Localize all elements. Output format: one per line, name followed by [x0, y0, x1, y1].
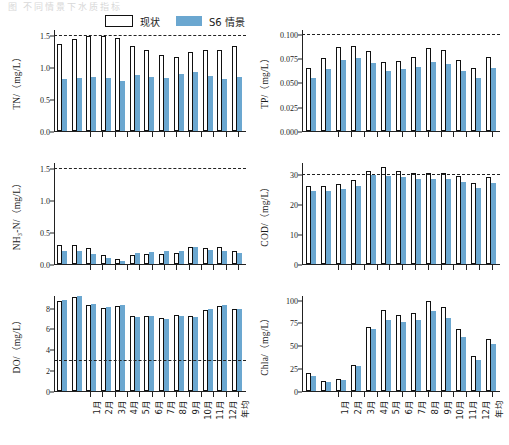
- bar-scenario-s6: [237, 253, 242, 264]
- bar-scenario-s6: [91, 254, 96, 264]
- bar-group: [229, 30, 244, 131]
- x-tick-mark: [479, 132, 480, 137]
- x-tick-mark: [402, 132, 403, 137]
- x-tick-mark: [415, 132, 416, 137]
- bar-group: [438, 163, 453, 264]
- bar-group: [318, 296, 333, 391]
- bar-group: [70, 296, 85, 391]
- bar-scenario-s6: [62, 79, 67, 131]
- plot-area-chla: 02550751001月2月3月4月5月6月7月8月9月10月11月12月年均: [272, 296, 502, 392]
- bar-group: [186, 296, 201, 391]
- x-tick-mark: [441, 132, 442, 137]
- bar-scenario-s6: [193, 72, 198, 131]
- bar-group: [200, 296, 215, 391]
- bar-group: [84, 30, 99, 131]
- x-tick-label: 1月: [338, 400, 350, 414]
- bar-scenario-s6: [193, 317, 198, 391]
- x-tick-label: 11月: [213, 400, 225, 420]
- bar-group: [171, 163, 186, 264]
- x-tick-label: 5月: [389, 400, 401, 414]
- x-tick-label: 1月: [90, 400, 102, 414]
- bar-scenario-s6: [371, 329, 376, 391]
- y-tick-label: 0.5: [40, 96, 50, 105]
- bars-container: [55, 296, 244, 391]
- x-tick-mark: [415, 265, 416, 270]
- bar-scenario-s6: [326, 191, 331, 264]
- x-tick-mark: [226, 265, 227, 270]
- chart-panel-cod: COD/（mg/L）0102030: [256, 163, 502, 265]
- bar-scenario-s6: [401, 69, 406, 131]
- x-tick-label: 3月: [364, 400, 376, 414]
- bar-group: [393, 163, 408, 264]
- bar-group: [200, 30, 215, 131]
- bar-scenario-s6: [356, 58, 361, 131]
- x-tick-label: 12月: [226, 400, 238, 420]
- x-tick-mark: [201, 265, 202, 270]
- bar-scenario-s6: [222, 305, 227, 391]
- bar-scenario-s6: [120, 305, 125, 391]
- y-axis-label-text: DO/（mg/L）: [9, 315, 23, 374]
- chart-panel-do: DO/（mg/L）024681月2月3月4月5月6月7月8月9月10月11月12…: [8, 296, 248, 392]
- bar-scenario-s6: [311, 376, 316, 391]
- bar-group: [113, 163, 128, 264]
- bars-container: [303, 30, 498, 131]
- bar-group: [157, 296, 172, 391]
- x-tick-mark: [139, 265, 140, 270]
- bar-scenario-s6: [149, 252, 154, 264]
- bar-group: [99, 30, 114, 131]
- x-axis-ticks: [84, 132, 244, 141]
- bar-scenario-s6: [164, 78, 169, 131]
- x-tick-mark: [238, 132, 239, 137]
- bar-group: [363, 163, 378, 264]
- bar-scenario-s6: [149, 316, 154, 391]
- bar-group: [215, 30, 230, 131]
- bar-group: [303, 163, 318, 264]
- x-tick-mark: [102, 132, 103, 137]
- bar-group: [378, 296, 393, 391]
- x-tick-mark: [127, 265, 128, 270]
- bar-group: [186, 30, 201, 131]
- bar-group: [408, 163, 423, 264]
- bar-scenario-s6: [106, 258, 111, 264]
- bar-group: [113, 296, 128, 391]
- bar-scenario-s6: [106, 307, 111, 391]
- x-tick-mark: [492, 132, 493, 137]
- bar-scenario-s6: [208, 76, 213, 131]
- bar-group: [348, 163, 363, 264]
- y-axis-ticks-tp: 0.0000.0250.0500.0750.100: [272, 30, 302, 132]
- bar-scenario-s6: [149, 77, 154, 131]
- bar-scenario-s6: [91, 77, 96, 131]
- y-axis-label-text: TP/（mg/L）: [257, 53, 271, 109]
- x-tick-label: 年均: [238, 400, 250, 418]
- y-tick-label: 10: [290, 231, 298, 240]
- bar-scenario-s6: [311, 191, 316, 264]
- bar-scenario-s6: [311, 78, 316, 131]
- y-tick-label: 0.100: [280, 30, 298, 39]
- axes-nh3n: [54, 163, 246, 265]
- threshold-line: [54, 360, 246, 361]
- bar-group: [453, 163, 468, 264]
- y-axis-label-text: TN/（mg/L）: [9, 52, 23, 110]
- bar-scenario-s6: [446, 179, 451, 264]
- bar-group: [363, 30, 378, 131]
- x-tick-mark: [115, 132, 116, 137]
- y-tick-label: 0.000: [280, 128, 298, 137]
- x-tick-mark: [90, 265, 91, 270]
- bar-group: [186, 163, 201, 264]
- x-tick-label: 6月: [402, 400, 414, 414]
- legend-label-scenario: S6 情景: [209, 14, 245, 29]
- x-tick-mark: [351, 265, 352, 270]
- bar-scenario-s6: [77, 251, 82, 264]
- threshold-line: [302, 34, 500, 35]
- bar-scenario-s6: [476, 360, 481, 391]
- bar-group: [423, 296, 438, 391]
- y-tick-label: 1.5: [40, 165, 50, 174]
- x-tick-mark: [164, 132, 165, 137]
- bar-group: [378, 163, 393, 264]
- x-tick-mark: [213, 132, 214, 137]
- x-tick-mark: [226, 132, 227, 137]
- y-axis-label-do: DO/（mg/L）: [8, 296, 24, 392]
- bar-group: [55, 296, 70, 391]
- x-tick-mark: [466, 132, 467, 137]
- bar-group: [423, 30, 438, 131]
